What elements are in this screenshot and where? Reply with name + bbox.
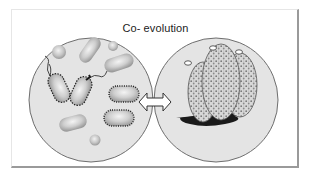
fimbriated-bacterium-icon	[104, 110, 134, 126]
coccus-icon	[108, 41, 118, 51]
coccus-icon	[52, 45, 66, 59]
figure-title: Co- evolution	[0, 22, 311, 34]
osculum-icon	[210, 46, 217, 50]
fimbriated-bacterium-icon	[109, 86, 139, 102]
sac-body-icon	[202, 44, 240, 120]
osculum-icon	[236, 50, 243, 54]
coccus-icon	[90, 135, 101, 146]
osculum-icon	[185, 61, 192, 65]
